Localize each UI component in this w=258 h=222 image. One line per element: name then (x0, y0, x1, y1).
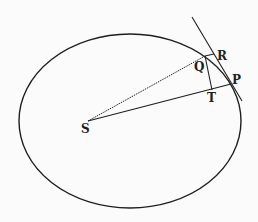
label-s: S (81, 122, 90, 136)
label-q: Q (194, 60, 204, 74)
orbit-diagram: S Q R P T (0, 0, 258, 222)
label-t: T (207, 91, 216, 105)
radius-sq-line (88, 56, 205, 121)
label-r: R (217, 49, 228, 63)
orbit-ellipse (19, 34, 241, 208)
qr-line (205, 54, 214, 56)
label-p: P (232, 73, 241, 87)
